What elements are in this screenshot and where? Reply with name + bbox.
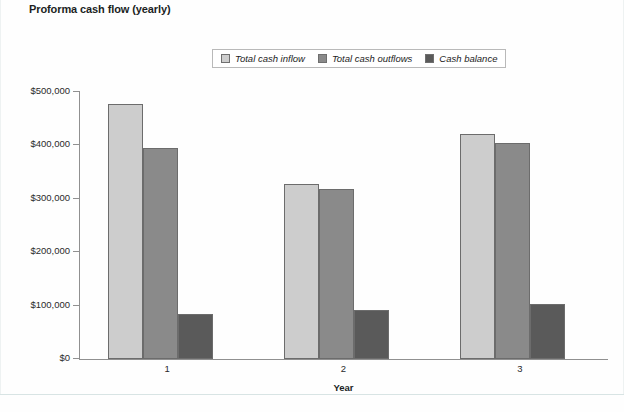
- bar-0: [284, 184, 319, 359]
- x-axis-line: [79, 359, 608, 360]
- x-tick-label: 1: [147, 363, 187, 374]
- legend-item-1: Total cash outflows: [318, 53, 412, 64]
- bar-1: [143, 148, 178, 359]
- y-tick-mark: [73, 91, 79, 92]
- page-bottom-rule: [0, 394, 624, 395]
- y-tick-mark: [73, 144, 79, 145]
- y-tick-label: $200,000: [30, 245, 70, 256]
- bar-1: [319, 189, 354, 359]
- bar-1: [495, 143, 530, 359]
- bar-0: [460, 134, 495, 359]
- plot-area: $0$100,000$200,000$300,000$400,000$500,0…: [79, 92, 608, 359]
- bar-0: [108, 104, 143, 359]
- chart-title: Proforma cash flow (yearly): [29, 3, 171, 15]
- legend-swatch-icon: [425, 54, 434, 63]
- y-tick-label: $400,000: [30, 138, 70, 149]
- bar-2: [354, 310, 389, 359]
- chart-figure: Proforma cash flow (yearly) Total cash i…: [0, 0, 624, 412]
- y-tick-label: $100,000: [30, 299, 70, 310]
- x-tick-label: 3: [500, 363, 540, 374]
- legend-swatch-icon: [318, 54, 327, 63]
- bar-2: [530, 304, 565, 359]
- y-tick-mark: [73, 251, 79, 252]
- y-tick-mark: [73, 305, 79, 306]
- bar-group: [284, 92, 389, 359]
- y-tick-label: $300,000: [30, 192, 70, 203]
- bar-group: [108, 92, 213, 359]
- legend-label: Total cash outflows: [332, 53, 412, 64]
- page-left-rule: [0, 0, 1, 395]
- x-tick-label: 2: [324, 363, 364, 374]
- bar-2: [178, 314, 213, 359]
- y-tick-label: $500,000: [30, 85, 70, 96]
- legend-swatch-icon: [221, 54, 230, 63]
- legend-label: Total cash inflow: [235, 53, 305, 64]
- y-tick-label: $0: [59, 352, 70, 363]
- x-axis-title: Year: [79, 382, 608, 393]
- y-tick-mark: [73, 358, 79, 359]
- legend-item-2: Cash balance: [425, 53, 497, 64]
- legend-item-0: Total cash inflow: [221, 53, 305, 64]
- chart-legend: Total cash inflowTotal cash outflowsCash…: [212, 49, 506, 68]
- bar-group: [460, 92, 565, 359]
- y-tick-mark: [73, 198, 79, 199]
- legend-label: Cash balance: [439, 53, 497, 64]
